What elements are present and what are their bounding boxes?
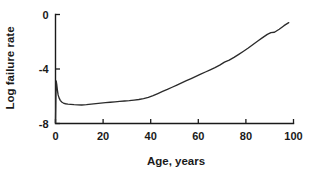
y-axis-tick-labels: 0-4-8 bbox=[39, 9, 50, 130]
mortality-line-chart: 020406080100 0-4-8 Age, years Log failur… bbox=[0, 0, 318, 172]
x-axis-title: Age, years bbox=[147, 155, 205, 167]
axis-frame bbox=[56, 15, 294, 124]
x-tick-label: 20 bbox=[97, 130, 109, 142]
x-tick-label: 40 bbox=[145, 130, 157, 142]
x-tick-label: 100 bbox=[284, 130, 302, 142]
x-tick-label: 80 bbox=[240, 130, 252, 142]
y-tick-label: -8 bbox=[39, 118, 49, 130]
x-tick-label: 0 bbox=[52, 130, 58, 142]
y-tick-label: 0 bbox=[42, 9, 48, 21]
y-axis-title: Log failure rate bbox=[4, 26, 16, 109]
log-failure-rate-curve bbox=[56, 23, 289, 123]
figure-container: 020406080100 0-4-8 Age, years Log failur… bbox=[0, 0, 318, 172]
x-axis-tick-labels: 020406080100 bbox=[52, 130, 302, 142]
plot-axes bbox=[56, 15, 294, 124]
x-tick-label: 60 bbox=[192, 130, 204, 142]
data-series-group bbox=[56, 23, 289, 123]
y-tick-label: -4 bbox=[39, 63, 50, 75]
